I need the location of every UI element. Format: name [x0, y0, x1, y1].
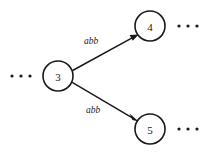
transition-3-to-5[interactable]: abb [72, 82, 138, 121]
ellipsis-dot [177, 24, 180, 27]
diagram-canvas: abb abb 3 4 5 [0, 0, 207, 154]
state-node-4-label: 4 [147, 21, 153, 33]
state-node-5-label: 5 [147, 124, 153, 136]
ellipsis-dot [28, 74, 31, 77]
state-node-3-label: 3 [55, 71, 61, 83]
transition-3-to-4[interactable]: abb [73, 34, 139, 70]
ellipsis-dot [19, 74, 22, 77]
ellipsis-right-of-state-4 [177, 24, 198, 27]
state-transition-diagram: abb abb 3 4 5 [0, 0, 207, 154]
ellipsis-left-of-state-3 [10, 74, 31, 77]
transition-3-to-4-line [73, 37, 134, 70]
ellipsis-dot [177, 127, 180, 130]
state-node-4[interactable]: 4 [135, 11, 165, 41]
transition-3-to-5-label: abb [86, 105, 101, 115]
ellipsis-dot [186, 127, 189, 130]
ellipsis-dot [195, 127, 198, 130]
ellipsis-dot [10, 74, 13, 77]
ellipsis-right-of-state-5 [177, 127, 198, 130]
transition-3-to-4-label: abb [84, 36, 99, 46]
ellipsis-dot [195, 24, 198, 27]
ellipsis-dot [186, 24, 189, 27]
state-node-3[interactable]: 3 [43, 61, 73, 91]
transition-3-to-5-line [72, 82, 133, 118]
state-node-5[interactable]: 5 [135, 114, 165, 144]
